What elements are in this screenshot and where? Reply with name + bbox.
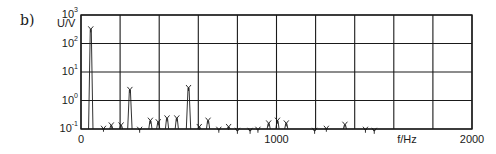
- spectral-peak: [89, 29, 93, 129]
- peak-marker-icon: [137, 127, 142, 133]
- peak-marker-icon: [255, 127, 260, 133]
- peak-marker-icon: [342, 122, 347, 128]
- peak-marker-icon: [88, 26, 93, 32]
- peak-marker-icon: [148, 118, 153, 124]
- peak-marker-icon: [363, 127, 368, 133]
- peak-marker-icon: [119, 122, 124, 128]
- peak-marker-icon: [275, 118, 280, 124]
- peak-marker-icon: [186, 85, 191, 91]
- peak-marker-icon: [127, 87, 132, 93]
- peak-marker-icon: [109, 122, 114, 128]
- peak-marker-icon: [174, 115, 179, 121]
- peak-marker-icon: [165, 115, 170, 121]
- peak-marker-icon: [284, 120, 289, 126]
- peak-marker-icon: [266, 120, 271, 126]
- spectrum-plot: [0, 0, 496, 154]
- peak-marker-icon: [156, 119, 161, 125]
- spectral-peak: [186, 88, 190, 129]
- peak-marker-icon: [216, 127, 221, 133]
- spectral-peak: [128, 90, 132, 129]
- peak-marker-icon: [206, 118, 211, 124]
